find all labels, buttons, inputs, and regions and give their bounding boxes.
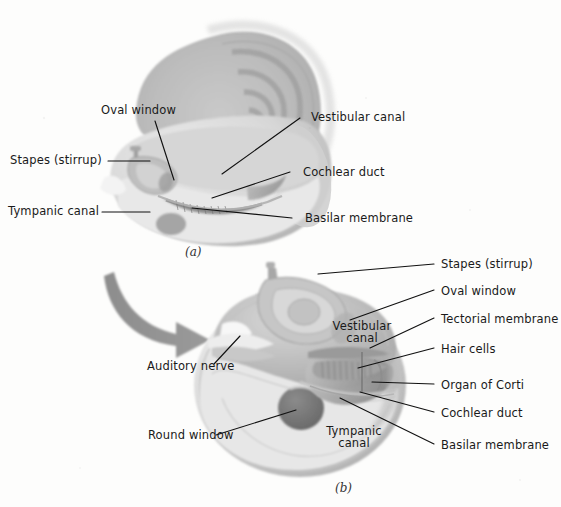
label-tectorial-membrane-b: Tectorial membrane	[441, 313, 558, 326]
label-round-window-b: Round window	[148, 429, 233, 442]
figure-artwork	[0, 0, 561, 507]
caption-panel-a: (a)	[185, 245, 202, 259]
label-tympanic-canal-b-line2: canal	[338, 436, 370, 450]
transition-arrow	[104, 272, 210, 358]
label-organ-of-corti-b: Organ of Corti	[441, 379, 524, 392]
label-cochlear-duct-a: Cochlear duct	[303, 166, 385, 179]
label-stapes-a: Stapes (stirrup)	[10, 154, 102, 167]
label-cochlear-duct-b: Cochlear duct	[441, 407, 523, 420]
label-vestibular-canal-a: Vestibular canal	[311, 111, 405, 124]
label-hair-cells-b: Hair cells	[441, 343, 496, 356]
label-basilar-membrane-a: Basilar membrane	[305, 212, 413, 225]
label-basilar-membrane-b: Basilar membrane	[441, 439, 549, 452]
label-tympanic-canal-a: Tympanic canal	[8, 205, 99, 218]
label-vestibular-canal-b: Vestibular canal	[331, 320, 393, 344]
label-auditory-nerve-b: Auditory nerve	[147, 360, 234, 373]
label-tympanic-canal-b: Tympanic canal	[324, 425, 384, 449]
round-window-a	[156, 213, 186, 235]
label-vestibular-canal-b-line2: canal	[346, 331, 378, 345]
caption-panel-b: (b)	[335, 481, 352, 495]
label-oval-window-b: Oval window	[441, 285, 516, 298]
label-oval-window-a: Oval window	[101, 104, 176, 117]
label-stapes-b: Stapes (stirrup)	[441, 258, 533, 271]
cochlea-figure: Oval window Stapes (stirrup) Tympanic ca…	[0, 0, 561, 507]
